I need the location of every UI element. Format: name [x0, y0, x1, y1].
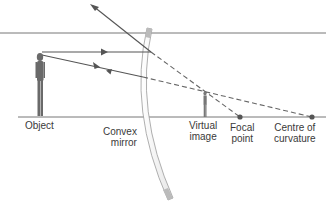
arrow-icon: [101, 49, 108, 56]
virtual-ray-to-focal-point: [151, 52, 240, 117]
focal-point-dot: [237, 114, 242, 119]
object-figure: [36, 53, 46, 116]
convex-mirror: [141, 28, 173, 200]
virtual-image-figure: [203, 92, 206, 118]
incident-ray-centre: [42, 55, 143, 77]
virtual-ray-to-centre: [143, 77, 312, 117]
centre-of-curvature-dot: [309, 114, 314, 119]
centre-of-curvature-label: Centre of curvature: [274, 122, 316, 144]
arrow-icon: [106, 69, 112, 75]
focal-point-label: Focal point: [230, 122, 254, 144]
reflected-ray-1: [93, 6, 151, 52]
mirror-label: Convex mirror: [103, 126, 137, 148]
virtual-image-label: Virtual image: [189, 120, 217, 142]
ray-diagram: [0, 0, 326, 211]
object-label: Object: [25, 120, 54, 131]
